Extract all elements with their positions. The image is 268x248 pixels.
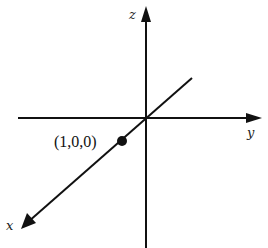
point-label: (1,0,0) xyxy=(54,133,97,151)
x-axis-arrow-icon xyxy=(21,213,36,229)
x-axis-line xyxy=(28,78,192,222)
z-axis-label: z xyxy=(128,7,136,22)
x-axis-label: x xyxy=(6,218,14,233)
z-axis-arrow-icon xyxy=(141,6,151,22)
x-axis: x xyxy=(6,78,192,233)
point-marker xyxy=(117,136,127,146)
point-1-0-0: (1,0,0) xyxy=(54,133,127,151)
y-axis-arrow-icon xyxy=(246,113,262,123)
y-axis-label: y xyxy=(246,125,255,140)
coordinate-axes-diagram: z y x (1,0,0) xyxy=(0,0,268,248)
z-axis: z xyxy=(128,6,151,248)
